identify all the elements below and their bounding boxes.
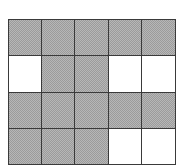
grid-cell-r3-c0[interactable] bbox=[9, 129, 42, 165]
grid-cell-r2-c0[interactable] bbox=[9, 93, 42, 129]
grid-cell-r3-c1[interactable] bbox=[42, 129, 75, 165]
grid-cell-r0-c1[interactable] bbox=[42, 20, 75, 56]
grid-cell-r1-c4[interactable] bbox=[142, 56, 175, 92]
grid-cell-r0-c2[interactable] bbox=[75, 20, 108, 56]
grid-container bbox=[8, 19, 176, 165]
figure-canvas bbox=[0, 0, 185, 165]
grid-cell-r0-c0[interactable] bbox=[9, 20, 42, 56]
grid-cell-r0-c3[interactable] bbox=[109, 20, 142, 56]
grid-cell-r2-c1[interactable] bbox=[42, 93, 75, 129]
grid-cell-r1-c0[interactable] bbox=[9, 56, 42, 92]
grid-cell-r2-c2[interactable] bbox=[75, 93, 108, 129]
grid-cell-r1-c3[interactable] bbox=[109, 56, 142, 92]
grid-cell-r3-c3[interactable] bbox=[109, 129, 142, 165]
grid-cell-r2-c3[interactable] bbox=[109, 93, 142, 129]
grid-cell-r2-c4[interactable] bbox=[142, 93, 175, 129]
grid-cell-r1-c2[interactable] bbox=[75, 56, 108, 92]
grid-cell-r3-c4[interactable] bbox=[142, 129, 175, 165]
grid-cell-r3-c2[interactable] bbox=[75, 129, 108, 165]
grid-cell-r0-c4[interactable] bbox=[142, 20, 175, 56]
grid-cell-r1-c1[interactable] bbox=[42, 56, 75, 92]
